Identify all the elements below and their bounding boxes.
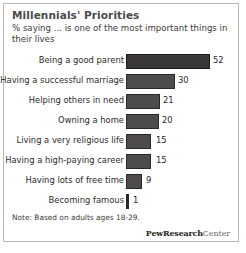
bar-row: Having lots of free time 9 (4, 172, 238, 192)
bar-category-label: Living a very religious life (17, 135, 124, 145)
bar-row: Being a good parent 52 (4, 52, 238, 72)
bar-value-label: 52 (213, 55, 224, 65)
chart-title: Millennials' Priorities (12, 9, 139, 21)
bar-value-label: 20 (162, 115, 173, 125)
bar-row: Helping others in need 21 (4, 92, 238, 112)
bar (126, 54, 210, 69)
bar-track (126, 174, 142, 189)
pew-research-center-logo: PewResearchCenter (146, 228, 230, 238)
bar-row: Living a very religious life 15 (4, 132, 238, 152)
bar-category-label: Becoming famous (49, 195, 124, 205)
chart-subtitle: % saying ... is one of the most importan… (12, 23, 234, 45)
bar (126, 194, 129, 209)
bar (126, 94, 160, 109)
bar (126, 74, 175, 89)
logo-text-secondary: Center (203, 229, 230, 238)
bar-category-label: Being a good parent (39, 55, 124, 65)
bar-category-label: Having lots of free time (25, 175, 124, 185)
bar-row: Owning a home 20 (4, 112, 238, 132)
bar (126, 174, 142, 189)
bar-track (126, 94, 160, 109)
bar-track (126, 74, 175, 89)
chart-note: Note: Based on adults ages 18-29. (12, 213, 140, 222)
bar (126, 154, 151, 169)
bar-track (126, 194, 129, 209)
bar-track (126, 154, 151, 169)
bar-chart-plot-area: Being a good parent 52 Having a successf… (4, 52, 238, 207)
bar-value-label: 15 (156, 135, 167, 145)
bar-value-label: 21 (163, 95, 174, 105)
bar-value-label: 30 (178, 75, 189, 85)
logo-text-primary: PewResearch (146, 228, 203, 238)
bar-row: Having a successful marriage 30 (4, 72, 238, 92)
chart-frame: Millennials' Priorities % saying ... is … (3, 3, 239, 242)
bar-category-label: Owning a home (58, 115, 124, 125)
bar-row: Having a high-paying career 15 (4, 152, 238, 172)
bar-category-label: Having a high-paying career (5, 155, 124, 165)
bar-row: Becoming famous 1 (4, 192, 238, 212)
bar-value-label: 1 (133, 195, 138, 205)
bar (126, 114, 159, 129)
bar-track (126, 114, 159, 129)
bar-value-label: 15 (156, 155, 167, 165)
bar-track (126, 134, 151, 149)
bar-track (126, 54, 210, 69)
bar (126, 134, 151, 149)
bar-category-label: Helping others in need (29, 95, 124, 105)
bar-category-label: Having a successful marriage (0, 75, 124, 85)
bar-value-label: 9 (146, 175, 151, 185)
